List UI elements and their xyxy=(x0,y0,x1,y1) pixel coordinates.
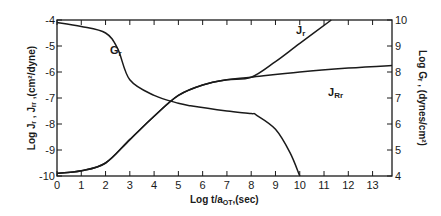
x-tick-label: 8 xyxy=(248,179,254,191)
curve-label-jr: Jr xyxy=(296,24,305,38)
y-left-tick-label: -9 xyxy=(45,144,55,156)
y-left-tick-label: -8 xyxy=(45,118,55,130)
x-axis-title: Log t/aOT,(sec) xyxy=(190,194,259,206)
x-tick-label: 10 xyxy=(294,179,306,191)
y-right-tick-label: 8 xyxy=(395,66,401,78)
y-axis-title-right: Log Gᵣ , (dynes/cm²) xyxy=(417,50,428,146)
x-tick-label: 9 xyxy=(272,179,278,191)
curve-label-jrr: JRr xyxy=(328,86,343,100)
y-right-tick-label: 4 xyxy=(395,170,401,182)
x-tick-label: 1 xyxy=(78,179,84,191)
x-tick-label: 11 xyxy=(318,179,329,191)
y-left-tick-label: -6 xyxy=(45,66,55,78)
x-tick-label: 4 xyxy=(151,179,157,191)
curve-label-gr: Gr xyxy=(110,44,122,58)
x-tick-label: 7 xyxy=(224,179,230,191)
x-tick-label: 13 xyxy=(366,179,378,191)
chart: 012345678910111213-4-5-6-7-8-9-101098765… xyxy=(0,0,441,216)
curve-jr xyxy=(57,20,331,173)
y-right-tick-label: 6 xyxy=(395,118,401,130)
y-right-tick-label: 5 xyxy=(395,144,401,156)
x-tick-label: 5 xyxy=(175,179,181,191)
y-right-tick-label: 7 xyxy=(395,92,401,104)
y-axis-title-left: Log Jᵣ , Jᵣᵣ ,(cm²/dyne) xyxy=(26,46,37,150)
curve-jrr xyxy=(57,66,392,174)
y-right-tick-label: 9 xyxy=(395,40,401,52)
y-right-tick-label: 10 xyxy=(395,14,407,26)
x-tick-label: 12 xyxy=(342,179,354,191)
axis-ticks: 012345678910111213-4-5-6-7-8-9-101098765… xyxy=(39,14,407,191)
x-tick-label: 6 xyxy=(200,179,206,191)
curve-gr xyxy=(57,23,300,176)
y-left-tick-label: -10 xyxy=(39,170,55,182)
y-left-tick-label: -5 xyxy=(45,40,55,52)
x-tick-label: 2 xyxy=(102,179,108,191)
y-left-tick-label: -4 xyxy=(45,14,55,26)
x-tick-label: 3 xyxy=(127,179,133,191)
y-left-tick-label: -7 xyxy=(45,92,55,104)
